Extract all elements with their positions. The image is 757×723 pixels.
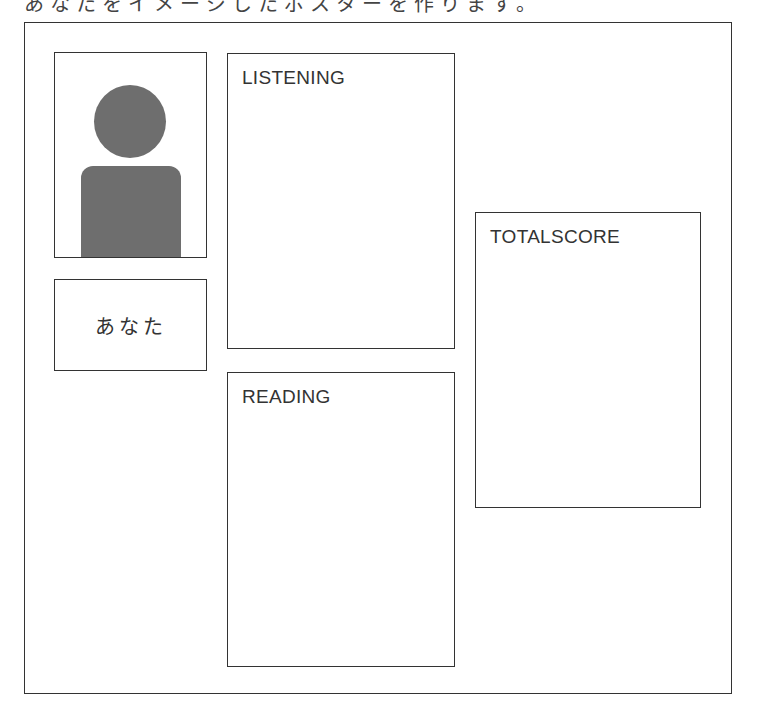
person-head-icon: [94, 85, 166, 158]
cropped-caption: あなたをイメージしたポスターを作ります。: [24, 0, 542, 17]
total-score-box: TOTALSCORE: [475, 212, 701, 508]
avatar-box: [54, 52, 207, 258]
reading-score-box: READING: [227, 372, 455, 667]
name-label: あなた: [95, 311, 167, 340]
person-body-icon: [81, 166, 181, 258]
listening-label: LISTENING: [242, 67, 345, 89]
name-box: あなた: [54, 279, 207, 371]
listening-score-box: LISTENING: [227, 53, 455, 349]
total-score-label: TOTALSCORE: [490, 226, 620, 248]
reading-label: READING: [242, 386, 331, 408]
